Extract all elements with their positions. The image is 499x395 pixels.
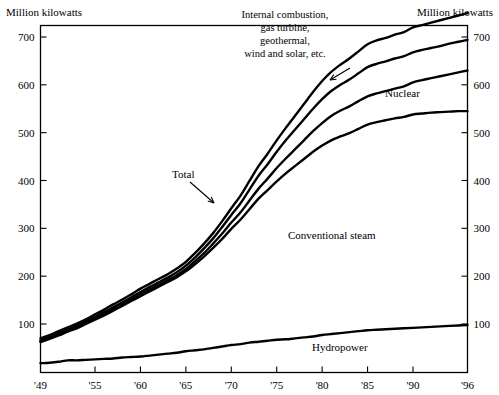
y-tick-label-right: 300: [474, 222, 491, 234]
y-tick-label-right: 600: [474, 79, 491, 91]
internal-combustion-annotation: Internal combustion,gas turbine,geotherm…: [215, 8, 355, 61]
internal-combustion-annotation-line: wind and solar, etc.: [215, 47, 355, 60]
series-line-0: [41, 13, 468, 338]
nuclear-annotation: Nuclear: [385, 87, 420, 99]
internal-combustion-annotation-line: Internal combustion,: [215, 8, 355, 21]
series-line-4: [41, 325, 468, 363]
y-tick-label: 100: [18, 318, 35, 330]
plot-frame: [41, 26, 468, 373]
y-tick-label: 700: [18, 31, 35, 43]
y-tick-label: 600: [18, 79, 35, 91]
x-tick-label: '65: [179, 379, 192, 391]
x-axis-ticks: '49'55'60'65'70'75'80'85'90'96: [34, 367, 474, 391]
y-tick-label-right: 100: [474, 318, 491, 330]
series-line-1: [41, 40, 468, 340]
x-tick-label: '90: [406, 379, 419, 391]
conventional-steam-annotation: Conventional steam: [288, 229, 376, 241]
total-annotation: Total: [172, 168, 194, 180]
x-tick-label: '75: [270, 379, 283, 391]
x-tick-label: '60: [134, 379, 147, 391]
x-tick-label: '85: [361, 379, 374, 391]
y-tick-label-right: 500: [474, 127, 491, 139]
y-tick-label-right: 400: [474, 175, 491, 187]
chart-root: Million kilowatts Million kilowatts 7007…: [0, 0, 499, 395]
y-tick-label-right: 700: [474, 31, 491, 43]
y-tick-label-right: 200: [474, 270, 491, 282]
total-leader: [190, 182, 214, 203]
y-tick-label: 300: [18, 222, 35, 234]
internal-combustion-annotation-line: gas turbine,: [215, 21, 355, 34]
hydropower-annotation: Hydropower: [312, 341, 368, 353]
x-tick-label: '96: [461, 379, 474, 391]
x-tick-label: '70: [225, 379, 238, 391]
x-tick-label: '55: [89, 379, 102, 391]
annotation-leader-lines: [190, 68, 350, 203]
data-series-group: [41, 13, 468, 363]
internal-combustion-annotation-line: geothermal,: [215, 34, 355, 47]
x-tick-label: '80: [316, 379, 329, 391]
series-line-2: [41, 70, 468, 341]
x-tick-label: '49: [34, 379, 47, 391]
y-tick-label: 500: [18, 127, 35, 139]
series-line-3: [41, 111, 468, 342]
y-tick-label: 400: [18, 175, 35, 187]
y-tick-label: 200: [18, 270, 35, 282]
